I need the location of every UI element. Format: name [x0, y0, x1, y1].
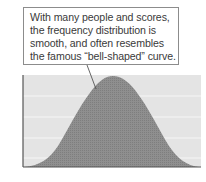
callout-line-4: the famous “bell-shaped” curve. [30, 50, 178, 63]
annotation-callout: With many people and scores, the frequen… [23, 7, 179, 65]
callout-line-3: smooth, and often resembles [30, 37, 178, 50]
callout-line-2: the frequency distribution is [30, 24, 178, 37]
callout-line-1: With many people and scores, [30, 11, 178, 24]
bell-curve-figure: With many people and scores, the frequen… [0, 0, 206, 182]
